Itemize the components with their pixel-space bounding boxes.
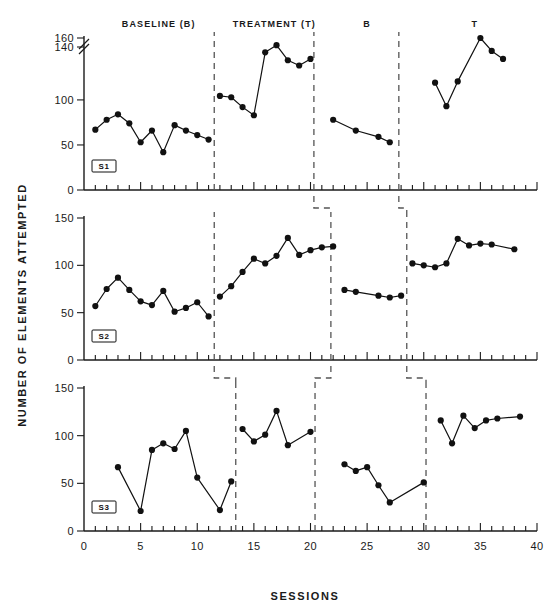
- data-point: [273, 253, 279, 259]
- data-point: [126, 120, 132, 126]
- x-axis-title: SESSIONS: [270, 590, 339, 602]
- data-point: [194, 132, 200, 138]
- data-point: [296, 62, 302, 68]
- data-point: [285, 442, 291, 448]
- data-point: [330, 117, 336, 123]
- y-tick-label: 0: [67, 354, 74, 366]
- data-point: [273, 408, 279, 414]
- data-point: [319, 244, 325, 250]
- data-point: [307, 247, 313, 253]
- data-point: [489, 48, 495, 54]
- data-point: [262, 49, 268, 55]
- data-point: [138, 508, 144, 514]
- x-tick-label: 15: [247, 540, 260, 552]
- data-point: [228, 94, 234, 100]
- y-tick-label: 160: [54, 32, 74, 44]
- data-point: [160, 440, 166, 446]
- data-point: [387, 499, 393, 505]
- data-point: [160, 288, 166, 294]
- data-point: [239, 104, 245, 110]
- data-point: [375, 293, 381, 299]
- data-point: [92, 127, 98, 133]
- x-tick-label: 35: [474, 540, 487, 552]
- data-point: [239, 269, 245, 275]
- data-point: [183, 428, 189, 434]
- data-point: [183, 305, 189, 311]
- data-point: [251, 112, 257, 118]
- figure-background: [0, 0, 546, 610]
- data-point: [149, 447, 155, 453]
- data-point: [421, 479, 427, 485]
- data-point: [443, 260, 449, 266]
- data-point: [217, 507, 223, 513]
- x-tick-label: 5: [137, 540, 144, 552]
- data-point: [104, 117, 110, 123]
- data-point: [149, 302, 155, 308]
- data-point: [115, 275, 121, 281]
- data-point: [341, 461, 347, 467]
- x-tick-label: 25: [361, 540, 374, 552]
- subject-label: S2: [99, 332, 110, 341]
- data-point: [138, 139, 144, 145]
- data-point: [443, 103, 449, 109]
- data-point: [296, 252, 302, 258]
- data-point: [387, 294, 393, 300]
- data-point: [353, 127, 359, 133]
- data-point: [262, 432, 268, 438]
- data-point: [273, 42, 279, 48]
- x-tick-label: 10: [191, 540, 204, 552]
- data-point: [517, 414, 523, 420]
- data-point: [511, 246, 517, 252]
- data-point: [375, 482, 381, 488]
- data-point: [160, 149, 166, 155]
- y-axis-title: NUMBER OF ELEMENTS ATTEMPTED: [16, 183, 28, 426]
- data-point: [92, 303, 98, 309]
- data-point: [194, 475, 200, 481]
- data-point: [251, 256, 257, 262]
- phase-header-label: BASELINE (B): [122, 19, 196, 29]
- data-point: [172, 309, 178, 315]
- x-tick-label: 20: [304, 540, 317, 552]
- data-point: [472, 425, 478, 431]
- data-point: [126, 287, 132, 293]
- data-point: [307, 429, 313, 435]
- phase-header-label: T: [471, 19, 478, 29]
- y-tick-label: 50: [61, 139, 74, 151]
- y-tick-label: 100: [54, 259, 74, 271]
- x-tick-label: 0: [81, 540, 88, 552]
- data-point: [353, 289, 359, 295]
- data-point: [217, 93, 223, 99]
- data-point: [460, 413, 466, 419]
- data-point: [477, 240, 483, 246]
- y-tick-label: 0: [67, 184, 74, 196]
- data-point: [104, 286, 110, 292]
- data-point: [262, 260, 268, 266]
- y-tick-label: 100: [54, 94, 74, 106]
- phase-header-label: TREATMENT (T): [233, 19, 316, 29]
- data-point: [494, 415, 500, 421]
- subject-label: S1: [99, 162, 110, 171]
- y-tick-label: 150: [54, 382, 74, 394]
- data-point: [375, 134, 381, 140]
- data-point: [466, 242, 472, 248]
- data-point: [421, 262, 427, 268]
- data-point: [330, 243, 336, 249]
- data-point: [251, 438, 257, 444]
- data-point: [183, 127, 189, 133]
- x-tick-label: 40: [530, 540, 543, 552]
- x-tick-label: 30: [417, 540, 430, 552]
- y-tick-label: 100: [54, 430, 74, 442]
- data-point: [449, 440, 455, 446]
- multiple-baseline-figure: 050100140160S1050100150S2050100150S3 BAS…: [0, 0, 546, 610]
- data-point: [455, 236, 461, 242]
- data-point: [307, 56, 313, 62]
- data-point: [228, 478, 234, 484]
- phase-header-label: B: [363, 19, 371, 29]
- data-point: [438, 417, 444, 423]
- data-point: [172, 122, 178, 128]
- data-point: [432, 80, 438, 86]
- subject-label: S3: [99, 503, 110, 512]
- data-point: [172, 446, 178, 452]
- data-point: [483, 417, 489, 423]
- chart-canvas: 050100140160S1050100150S2050100150S3 BAS…: [0, 0, 546, 610]
